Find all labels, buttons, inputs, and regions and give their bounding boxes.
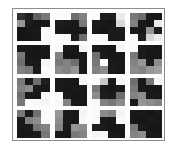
- patch-cell: [154, 92, 162, 99]
- patch-cell: [55, 110, 63, 117]
- patch-cell: [130, 34, 138, 41]
- patch-cell: [71, 52, 79, 59]
- figure-panel: [12, 8, 165, 141]
- patch-cell: [138, 131, 146, 138]
- patch-cell: [33, 92, 41, 99]
- patch-cell: [138, 27, 146, 34]
- patch-cell: [41, 45, 49, 52]
- patch-cell: [79, 52, 87, 59]
- patch-cell: [55, 99, 63, 106]
- patch-cell: [100, 99, 108, 106]
- patch-cell: [108, 13, 116, 20]
- patch-cell: [116, 131, 124, 138]
- patch-cell: [116, 45, 124, 52]
- patch-cell: [116, 34, 124, 41]
- patch-cell: [33, 52, 41, 59]
- patch-cell: [63, 45, 71, 52]
- patch-cell: [25, 34, 33, 41]
- patch-cell: [17, 117, 25, 124]
- patch-cell: [154, 78, 162, 85]
- patch-cell: [146, 13, 154, 20]
- patch-cell: [108, 92, 116, 99]
- patch-cell: [116, 110, 124, 117]
- patch-cell: [25, 85, 33, 92]
- patch-cell: [79, 13, 87, 20]
- patch-tile: [55, 78, 88, 106]
- patch-cell: [55, 13, 63, 20]
- patch-cell: [116, 99, 124, 106]
- patch-cell: [25, 20, 33, 27]
- patch-cell: [100, 131, 108, 138]
- patch-cell: [41, 27, 49, 34]
- patch-cell: [92, 59, 100, 66]
- patch-cell: [41, 124, 49, 131]
- patch-cell: [108, 124, 116, 131]
- patch-cell: [41, 131, 49, 138]
- patch-tile: [17, 45, 50, 73]
- patch-cell: [100, 45, 108, 52]
- patch-tile: [92, 110, 125, 138]
- patch-cell: [100, 52, 108, 59]
- patch-cell: [92, 52, 100, 59]
- patch-cell: [71, 66, 79, 73]
- patch-cell: [154, 27, 162, 34]
- patch-cell: [100, 124, 108, 131]
- patch-cell: [138, 66, 146, 73]
- patch-cell: [108, 78, 116, 85]
- patch-cell: [33, 27, 41, 34]
- patch-cell: [79, 131, 87, 138]
- patch-cell: [138, 78, 146, 85]
- patch-cell: [41, 99, 49, 106]
- patch-cell: [63, 78, 71, 85]
- patch-cell: [146, 78, 154, 85]
- patch-cell: [79, 110, 87, 117]
- patch-cell: [154, 59, 162, 66]
- patch-cell: [92, 99, 100, 106]
- patch-cell: [17, 78, 25, 85]
- patch-cell: [154, 45, 162, 52]
- patch-cell: [146, 131, 154, 138]
- patch-cell: [71, 110, 79, 117]
- patch-cell: [55, 20, 63, 27]
- patch-cell: [154, 34, 162, 41]
- patch-cell: [17, 52, 25, 59]
- patch-cell: [116, 78, 124, 85]
- patch-cell: [33, 20, 41, 27]
- patch-tile: [92, 45, 125, 73]
- patch-cell: [146, 85, 154, 92]
- patch-tile: [55, 45, 88, 73]
- patch-cell: [79, 85, 87, 92]
- patch-cell: [33, 45, 41, 52]
- patch-cell: [25, 78, 33, 85]
- patch-cell: [55, 124, 63, 131]
- patch-cell: [17, 131, 25, 138]
- patch-cell: [146, 27, 154, 34]
- patch-cell: [17, 59, 25, 66]
- patch-cell: [63, 13, 71, 20]
- patch-cell: [17, 85, 25, 92]
- patch-cell: [92, 117, 100, 124]
- patch-cell: [100, 110, 108, 117]
- patch-cell: [63, 20, 71, 27]
- patch-cell: [17, 66, 25, 73]
- patch-cell: [92, 13, 100, 20]
- patch-cell: [63, 117, 71, 124]
- patch-cell: [41, 34, 49, 41]
- patch-cell: [130, 131, 138, 138]
- patch-cell: [25, 13, 33, 20]
- patch-cell: [63, 124, 71, 131]
- patch-cell: [116, 124, 124, 131]
- patch-tile: [55, 13, 88, 41]
- patch-cell: [138, 110, 146, 117]
- patch-cell: [154, 99, 162, 106]
- patch-cell: [55, 131, 63, 138]
- patch-cell: [100, 66, 108, 73]
- patch-cell: [138, 13, 146, 20]
- patch-cell: [108, 85, 116, 92]
- patch-cell: [92, 85, 100, 92]
- patch-tile: [130, 110, 163, 138]
- patch-cell: [138, 117, 146, 124]
- patch-cell: [116, 66, 124, 73]
- patch-cell: [100, 85, 108, 92]
- patch-cell: [154, 131, 162, 138]
